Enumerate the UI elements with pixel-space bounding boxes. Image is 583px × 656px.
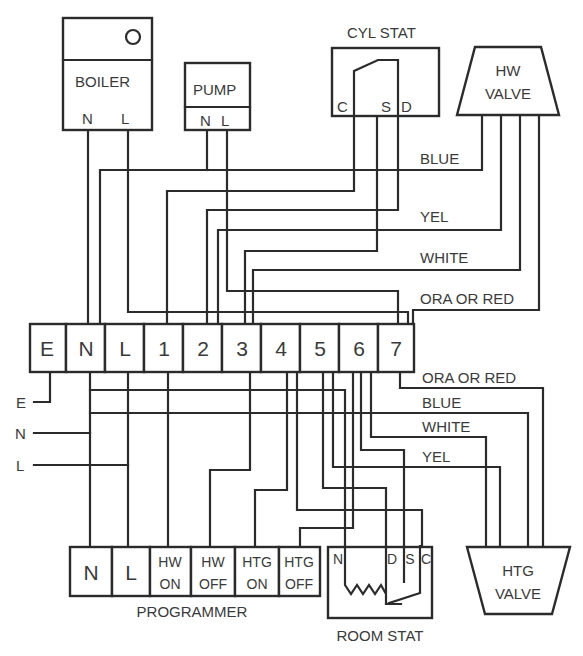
room-thermostat: N D S C ROOM STAT [328, 546, 432, 644]
htg-valve-label-1: HTG [502, 562, 534, 579]
room-stat-terminal-c: C [421, 551, 431, 567]
pump: PUMP N L [185, 63, 250, 130]
junction-terminal-l: L [119, 337, 131, 360]
junction-terminal-3: 3 [236, 337, 248, 360]
wire-label-ora-bottom: ORA OR RED [422, 369, 516, 386]
supply-e: E [16, 394, 26, 411]
hw-valve-label-2: VALVE [485, 85, 531, 102]
room-stat-terminal-d: D [387, 551, 397, 567]
room-stat-label: ROOM STAT [337, 627, 424, 644]
junction-terminal-4: 4 [275, 337, 287, 360]
htg-valve: HTG VALVE [467, 547, 570, 614]
wire-label-yel-top: YEL [420, 208, 448, 225]
junction-box: E N L 1 2 3 4 5 6 7 [30, 324, 414, 372]
cyl-stat-terminal-c: C [337, 98, 348, 115]
boiler-terminal-l: L [121, 110, 129, 127]
junction-terminal-1: 1 [158, 337, 170, 360]
wire-label-white-top: WHITE [420, 249, 468, 266]
supply-labels: E N L [15, 394, 26, 474]
junction-terminal-6: 6 [353, 337, 365, 360]
wire-label-blue-bottom: BLUE [422, 394, 461, 411]
junction-terminal-5: 5 [314, 337, 326, 360]
prog-terminal-n: N [83, 561, 98, 584]
supply-l: L [16, 457, 24, 474]
prog-htg-on-1: HTG [242, 554, 272, 570]
programmer-label: PROGRAMMER [137, 603, 248, 620]
wire-label-yel-bottom: YEL [422, 448, 450, 465]
programmer: N L HW ON HW OFF HTG ON HTG OFF PROGRAMM… [70, 547, 320, 620]
cyl-stat-terminal-s: S [381, 98, 391, 115]
junction-terminal-e: E [40, 337, 54, 360]
top-wires [88, 80, 539, 323]
pump-terminal-l: L [221, 112, 229, 129]
prog-htg-off-1: HTG [284, 554, 314, 570]
htg-valve-label-2: VALVE [495, 585, 541, 602]
prog-htg-on-2: ON [247, 576, 268, 592]
hw-valve: HW VALVE [457, 47, 559, 115]
boiler: BOILER N L [63, 18, 152, 130]
wire-label-blue-top: BLUE [420, 150, 459, 167]
wire-label-white-bottom: WHITE [422, 418, 470, 435]
boiler-terminal-n: N [82, 110, 93, 127]
prog-hw-off-2: OFF [199, 576, 227, 592]
cyl-stat-label: CYL STAT [347, 24, 416, 41]
cyl-stat-terminal-d: D [401, 98, 412, 115]
prog-hw-off-1: HW [201, 554, 225, 570]
boiler-label: BOILER [75, 73, 130, 90]
prog-terminal-l: L [125, 561, 137, 584]
prog-hw-on-2: ON [160, 576, 181, 592]
cylinder-thermostat: CYL STAT C S D [332, 24, 439, 116]
junction-terminal-n: N [78, 337, 93, 360]
hw-valve-label-1: HW [496, 62, 522, 79]
junction-terminal-7: 7 [390, 337, 402, 360]
room-stat-terminal-n: N [333, 551, 343, 567]
supply-n: N [15, 425, 26, 442]
pump-label: PUMP [193, 81, 236, 98]
prog-htg-off-2: OFF [285, 576, 313, 592]
room-stat-terminal-s: S [405, 551, 414, 567]
wiring-diagram: BOILER N L PUMP N L CYL STAT C S D HW VA… [0, 0, 583, 656]
wire-label-ora-top: ORA OR RED [420, 290, 514, 307]
bottom-wire-labels: ORA OR RED BLUE WHITE YEL [422, 369, 516, 465]
prog-hw-on-1: HW [158, 554, 182, 570]
junction-terminal-2: 2 [197, 337, 209, 360]
pump-terminal-n: N [200, 112, 211, 129]
